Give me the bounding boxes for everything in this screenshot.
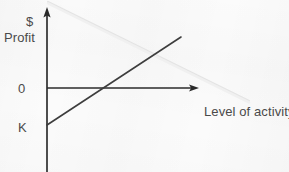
origin-tick-label: 0 [18, 82, 25, 95]
y-axis-currency-label: $ [26, 15, 33, 28]
profit-activity-diagram: $ Profit 0 K Level of activity [0, 0, 289, 172]
profit-line [47, 37, 181, 125]
x-axis-title-label: Level of activity [204, 105, 289, 118]
diagram-canvas [0, 0, 289, 172]
y-axis-title-label: Profit [4, 31, 35, 44]
fixed-cost-tick-label: K [18, 121, 27, 134]
